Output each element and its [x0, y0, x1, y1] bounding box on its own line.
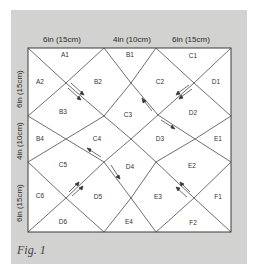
figure-caption: Fig. 1 — [17, 243, 46, 258]
piece-label-c5: C5 — [59, 161, 68, 168]
left-dim-top: 6in (15cm) — [15, 70, 24, 108]
piece-label-b3: B3 — [59, 108, 67, 115]
top-dim-middle: 4in (10cm) — [113, 35, 151, 44]
piece-label-b2: B2 — [94, 78, 102, 85]
piece-label-d4: D4 — [126, 163, 135, 170]
left-dim-bottom: 6in (15cm) — [15, 184, 24, 222]
piece-label-c1: C1 — [189, 52, 198, 59]
top-dim-right: 6in (15cm) — [172, 35, 210, 44]
piece-label-f2: F2 — [189, 219, 197, 226]
piece-label-e3: E3 — [154, 193, 162, 200]
piece-label-c4: C4 — [93, 135, 102, 142]
top-dim-left: 6in (15cm) — [43, 35, 81, 44]
piece-label-b1: B1 — [126, 51, 134, 58]
piece-label-d6: D6 — [59, 218, 68, 225]
piece-label-c6: C6 — [36, 192, 45, 199]
piece-label-c2: C2 — [156, 78, 165, 85]
piece-label-d5: D5 — [94, 193, 103, 200]
piece-label-a1: A1 — [61, 51, 69, 58]
piece-label-a2: A2 — [36, 78, 44, 85]
piece-label-e4: E4 — [125, 218, 133, 225]
piece-label-e2: E2 — [188, 162, 196, 169]
piece-label-d2: D2 — [189, 109, 198, 116]
quilt-block-diagram: 6in (15cm) 4in (10cm) 6in (15cm) 6in (15… — [0, 0, 257, 269]
piece-label-d3: D3 — [156, 135, 165, 142]
piece-label-e1: E1 — [214, 135, 222, 142]
left-dim-middle: 4in (10cm) — [15, 122, 24, 160]
piece-label-f1: F1 — [214, 193, 222, 200]
piece-label-c3: C3 — [124, 111, 133, 118]
piece-label-d1: D1 — [212, 78, 221, 85]
piece-label-b4: B4 — [36, 135, 44, 142]
